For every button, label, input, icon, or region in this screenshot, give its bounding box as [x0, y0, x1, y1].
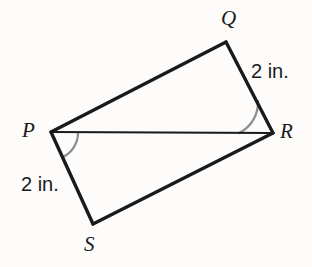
- vertex-label-S: S: [84, 234, 95, 255]
- vertex-label-Q: Q: [221, 8, 236, 29]
- diagonal-PR: [51, 132, 273, 133]
- measure-label-QR: 2 in.: [251, 61, 289, 81]
- angle-SPR-arc: [63, 133, 78, 157]
- vertex-label-R: R: [280, 121, 293, 142]
- angle-QRP-arc: [239, 101, 258, 133]
- geometry-figure: P Q R S 2 in. 2 in.: [0, 0, 312, 267]
- measure-label-PS: 2 in.: [21, 174, 59, 194]
- edge-RS: [93, 133, 273, 224]
- edge-QR: [226, 42, 273, 133]
- edge-PQ: [51, 42, 226, 132]
- vertex-label-P: P: [22, 120, 35, 141]
- figure-canvas: [0, 0, 312, 267]
